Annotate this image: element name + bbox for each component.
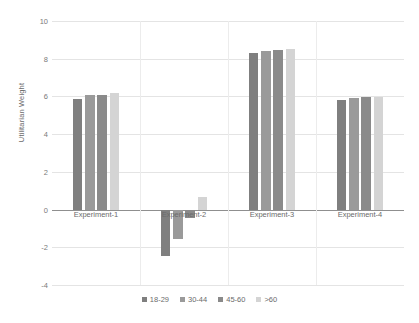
y-axis-tick-label: 10 (18, 17, 48, 26)
bar-chart: Utilitarian Weight 1086420-2-4 Experimen… (0, 0, 419, 323)
x-axis-tick-label: Experiment-3 (228, 210, 316, 219)
bar-group (228, 21, 316, 285)
legend-swatch-icon (180, 297, 185, 302)
y-axis-tick-label: -2 (18, 243, 48, 252)
legend-label: 30-44 (188, 296, 207, 304)
y-axis-tick-label: 6 (18, 92, 48, 101)
bar-group (140, 21, 228, 285)
bar[interactable] (198, 197, 208, 209)
legend-label: >60 (264, 296, 277, 304)
y-axis-tick-label: 0 (18, 205, 48, 214)
bar[interactable] (337, 100, 347, 209)
bar[interactable] (110, 93, 120, 210)
y-axis-tick-label: 4 (18, 130, 48, 139)
bar[interactable] (361, 97, 371, 209)
bar[interactable] (261, 51, 271, 209)
x-axis-tick-label: Experiment-1 (52, 210, 140, 219)
legend-item[interactable]: 18-29 (142, 296, 169, 304)
bar-group (316, 21, 404, 285)
bar[interactable] (273, 50, 283, 209)
x-axis-tick-label: Experiment-4 (316, 210, 404, 219)
bar[interactable] (249, 53, 259, 210)
bar-group (52, 21, 140, 285)
legend-item[interactable]: >60 (256, 296, 277, 304)
legend-item[interactable]: 45-60 (218, 296, 245, 304)
bar[interactable] (73, 99, 83, 209)
legend-swatch-icon (218, 297, 223, 302)
bar[interactable] (97, 95, 107, 210)
legend-item[interactable]: 30-44 (180, 296, 207, 304)
y-axis-tick-label: 2 (18, 167, 48, 176)
x-axis-tick-labels: Experiment-1Experiment-2Experiment-3Expe… (52, 210, 404, 226)
legend-swatch-icon (256, 297, 261, 302)
legend-label: 18-29 (150, 296, 169, 304)
y-axis-tick-labels: 1086420-2-4 (14, 21, 48, 285)
gridline (52, 285, 404, 286)
bar[interactable] (374, 97, 384, 209)
chart-legend: 18-2930-4445-60>60 (0, 296, 419, 304)
bar[interactable] (349, 98, 359, 209)
plot-area (52, 21, 404, 285)
x-axis-tick-label: Experiment-2 (140, 210, 228, 219)
legend-label: 45-60 (226, 296, 245, 304)
legend-swatch-icon (142, 297, 147, 302)
y-axis-tick-label: 8 (18, 54, 48, 63)
bar[interactable] (85, 95, 95, 209)
bar[interactable] (286, 49, 296, 209)
y-axis-tick-label: -4 (18, 281, 48, 290)
